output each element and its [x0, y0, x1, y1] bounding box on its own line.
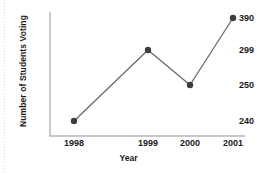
- x-axis-tick-label-2001: 2001: [211, 138, 255, 148]
- x-axis-tick-label-2000: 2000: [168, 138, 212, 148]
- y-axis-tick-label-299: 299: [211, 45, 257, 55]
- y-axis-tick-label-390: 390: [211, 13, 257, 23]
- x-axis-tick-label-1998: 1998: [52, 138, 96, 148]
- data-point-1998[interactable]: [71, 118, 77, 124]
- y-axis-tick-label-250: 250: [211, 80, 257, 90]
- y-axis-tick-label-240: 240: [211, 116, 257, 126]
- data-line: [74, 18, 233, 121]
- data-point-1999[interactable]: [145, 47, 151, 53]
- line-chart: 390 299 250 240 1998 1999 2000 2001 Numb…: [0, 0, 257, 174]
- y-axis-title: Number of Students Voting: [18, 6, 28, 136]
- data-point-2000[interactable]: [187, 82, 193, 88]
- x-axis-title: Year: [0, 153, 257, 163]
- x-axis-tick-label-1999: 1999: [126, 138, 170, 148]
